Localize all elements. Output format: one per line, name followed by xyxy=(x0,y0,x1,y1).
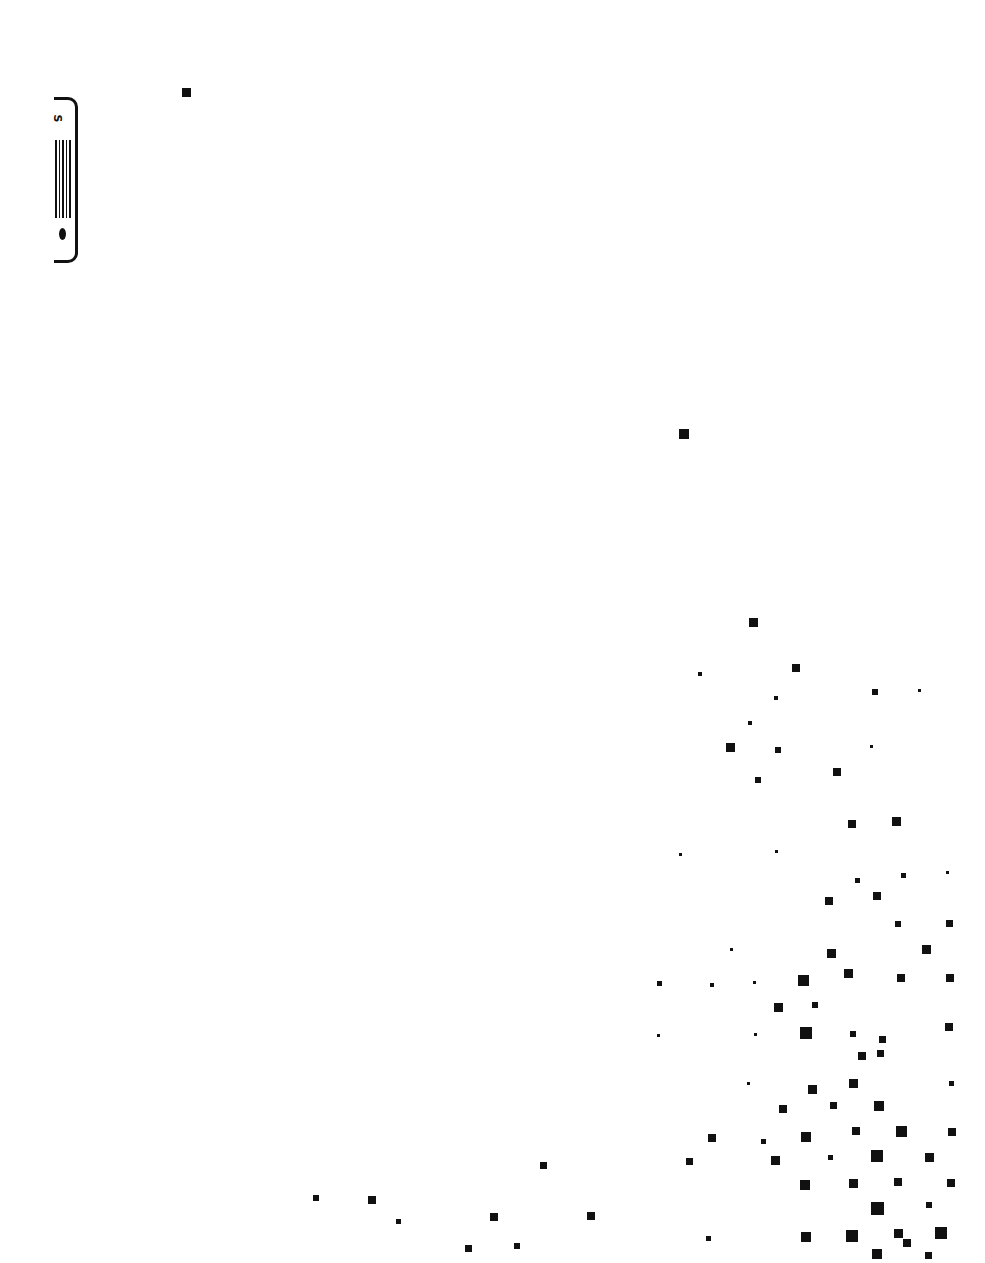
data-point xyxy=(775,850,778,853)
data-point xyxy=(182,88,191,97)
data-point xyxy=(926,1202,932,1208)
data-point xyxy=(761,1139,766,1144)
data-point xyxy=(679,853,682,856)
data-point xyxy=(679,429,689,439)
data-point xyxy=(922,945,931,954)
scatter-plot: S xyxy=(0,0,985,1263)
data-point xyxy=(808,1085,817,1094)
data-point xyxy=(947,1179,955,1187)
data-point xyxy=(848,820,856,828)
data-point xyxy=(514,1243,520,1249)
data-point xyxy=(587,1212,595,1220)
data-point xyxy=(945,1023,953,1031)
data-point xyxy=(879,1036,886,1043)
legend-dot-icon xyxy=(59,228,66,240)
data-point xyxy=(849,1079,858,1088)
legend-box: S xyxy=(54,97,78,263)
data-point xyxy=(877,1050,884,1057)
data-point xyxy=(871,1202,884,1215)
data-point xyxy=(903,1239,911,1247)
data-point xyxy=(894,1229,903,1238)
data-point xyxy=(726,743,735,752)
data-point xyxy=(828,1155,833,1160)
data-point xyxy=(825,897,833,905)
data-point xyxy=(774,1003,783,1012)
data-point xyxy=(855,878,860,883)
data-point xyxy=(897,974,905,982)
data-point xyxy=(872,1249,882,1259)
data-point xyxy=(490,1213,498,1221)
data-point xyxy=(779,1105,787,1113)
data-point xyxy=(849,1179,858,1188)
data-point xyxy=(871,1150,883,1162)
data-point xyxy=(753,981,756,984)
data-point xyxy=(657,1034,660,1037)
data-point xyxy=(755,777,761,783)
legend-bars-icon xyxy=(55,140,71,218)
data-point xyxy=(686,1158,693,1165)
data-point xyxy=(874,1101,884,1111)
data-point xyxy=(894,1178,902,1186)
data-point xyxy=(850,1031,856,1037)
data-point xyxy=(708,1134,716,1142)
data-point xyxy=(798,975,809,986)
data-point xyxy=(800,1180,810,1190)
data-point xyxy=(946,974,954,982)
data-point xyxy=(710,983,714,987)
data-point xyxy=(918,689,921,692)
data-point xyxy=(771,1156,780,1165)
data-point xyxy=(540,1162,547,1169)
data-point xyxy=(812,1002,818,1008)
data-point xyxy=(892,817,901,826)
data-point xyxy=(935,1227,947,1239)
data-point xyxy=(792,664,800,672)
data-point xyxy=(747,1082,750,1085)
data-point xyxy=(396,1219,401,1224)
data-point xyxy=(313,1195,319,1201)
data-point xyxy=(827,949,836,958)
data-point xyxy=(844,969,853,978)
data-point xyxy=(801,1232,811,1242)
data-point xyxy=(858,1052,866,1060)
legend-label: S xyxy=(51,115,64,123)
data-point xyxy=(754,1033,757,1036)
data-point xyxy=(800,1027,812,1039)
data-point xyxy=(657,981,662,986)
data-point xyxy=(948,1128,956,1136)
data-point xyxy=(801,1132,811,1142)
data-point xyxy=(846,1230,858,1242)
data-point xyxy=(895,921,901,927)
data-point xyxy=(368,1196,376,1204)
data-point xyxy=(852,1127,860,1135)
data-point xyxy=(698,672,702,676)
data-point xyxy=(706,1236,711,1241)
data-point xyxy=(748,721,752,725)
data-point xyxy=(465,1245,472,1252)
data-point xyxy=(946,920,953,927)
data-point xyxy=(872,689,878,695)
data-point xyxy=(949,1081,954,1086)
data-point xyxy=(730,948,733,951)
data-point xyxy=(830,1102,837,1109)
data-point xyxy=(774,696,778,700)
data-point xyxy=(925,1153,934,1162)
data-point xyxy=(775,747,781,753)
data-point xyxy=(925,1252,932,1259)
data-point xyxy=(833,768,841,776)
data-point xyxy=(896,1126,907,1137)
data-point xyxy=(870,745,873,748)
data-point xyxy=(901,873,906,878)
data-point xyxy=(946,871,949,874)
data-point xyxy=(749,618,758,627)
data-point xyxy=(873,892,881,900)
